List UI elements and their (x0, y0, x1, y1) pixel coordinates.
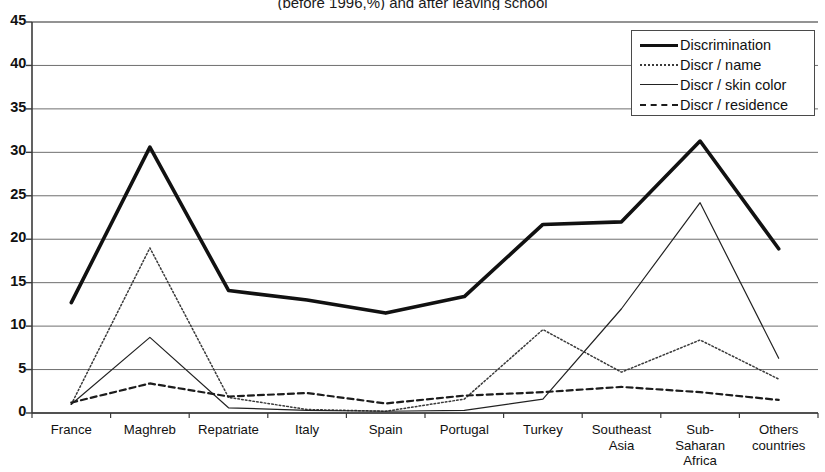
series-line (71, 203, 778, 412)
x-axis-label: Spain (346, 422, 425, 438)
y-tick-label: 0 (0, 403, 26, 419)
x-axis-label: Otherscountries (739, 422, 818, 453)
chart-legend: Discrimination Discr / name Discr / skin… (631, 30, 815, 116)
x-axis-label: France (32, 422, 111, 438)
y-tick-label: 10 (0, 316, 26, 332)
legend-label: Discrimination (680, 37, 771, 53)
y-tick-label: 35 (0, 99, 26, 115)
x-axis-label: Turkey (504, 422, 583, 438)
legend-item-discr-name: Discr / name (638, 55, 814, 75)
line-chart: (before 1996,%) and after leaving school… (0, 0, 825, 472)
y-tick-label: 45 (0, 12, 26, 28)
legend-swatch-dotted-icon (638, 58, 680, 72)
legend-item-discr-skin-color: Discr / skin color (638, 75, 814, 95)
series-line (71, 141, 778, 313)
legend-label: Discr / skin color (680, 77, 786, 93)
legend-item-discr-residence: Discr / residence (638, 95, 814, 115)
x-axis-label: SoutheastAsia (582, 422, 661, 453)
x-axis-label: Italy (268, 422, 347, 438)
legend-label: Discr / residence (680, 97, 788, 113)
legend-swatch-thick-solid-icon (638, 38, 680, 52)
x-axis-label: Maghreb (111, 422, 190, 438)
legend-swatch-thin-solid-icon (638, 78, 680, 92)
x-axis-label: Sub-SaharanAfrica (661, 422, 740, 469)
series-line (71, 248, 778, 411)
legend-swatch-dashed-icon (638, 98, 680, 112)
y-tick-label: 25 (0, 186, 26, 202)
legend-label: Discr / name (680, 57, 761, 73)
y-tick-label: 5 (0, 360, 26, 376)
y-tick-label: 40 (0, 55, 26, 71)
y-tick-label: 30 (0, 142, 26, 158)
series-line (71, 383, 778, 403)
y-tick-label: 15 (0, 273, 26, 289)
y-tick-label: 20 (0, 229, 26, 245)
x-axis-label: Portugal (425, 422, 504, 438)
x-axis-label: Repatriate (189, 422, 268, 438)
legend-item-discrimination: Discrimination (638, 35, 814, 55)
